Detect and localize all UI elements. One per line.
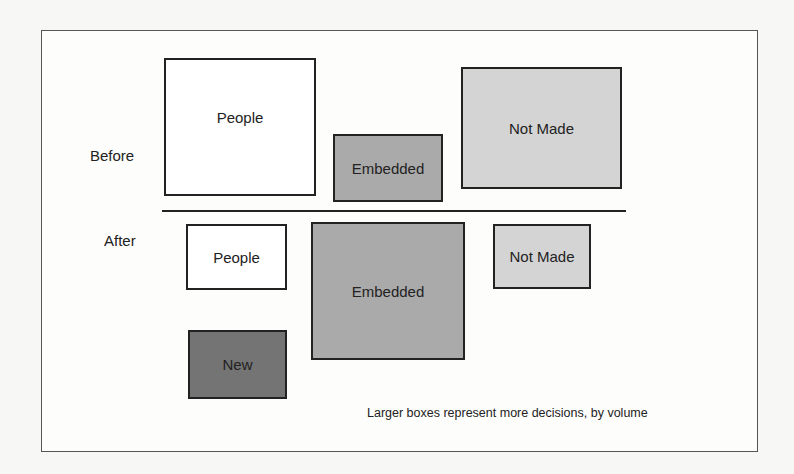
after-embedded-box: Embedded	[311, 222, 465, 360]
before-after-divider	[162, 210, 626, 212]
box-label: Not Made	[509, 120, 574, 137]
box-label: People	[217, 109, 264, 126]
before-people-box: People	[164, 58, 316, 196]
box-label: Not Made	[509, 248, 574, 265]
box-label: New	[222, 356, 252, 373]
before-embedded-box: Embedded	[333, 134, 443, 202]
box-label: People	[213, 249, 260, 266]
after-new-box: New	[188, 330, 287, 399]
row-label-after: After	[104, 232, 136, 249]
box-label: Embedded	[352, 283, 425, 300]
row-label-before: Before	[90, 147, 134, 164]
before-not-made-box: Not Made	[461, 67, 622, 189]
box-label: Embedded	[352, 160, 425, 177]
caption: Larger boxes represent more decisions, b…	[367, 406, 648, 420]
after-people-box: People	[186, 224, 287, 290]
after-not-made-box: Not Made	[493, 224, 591, 289]
